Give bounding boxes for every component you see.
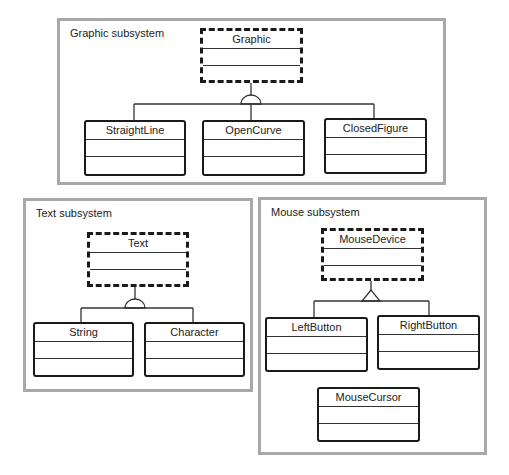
class-name: ClosedFigure <box>326 120 425 138</box>
class-operations <box>319 424 418 440</box>
class-attributes <box>90 253 186 270</box>
class-name: Character <box>146 324 243 342</box>
class-straightline[interactable]: StraightLine <box>84 120 186 176</box>
class-leftbutton[interactable]: LeftButton <box>265 317 368 372</box>
class-attributes <box>319 407 418 424</box>
class-rightbutton[interactable]: RightButton <box>377 315 480 370</box>
class-operations <box>204 157 303 173</box>
class-attributes <box>204 140 303 157</box>
class-opencurve[interactable]: OpenCurve <box>202 120 305 176</box>
class-operations <box>35 359 132 375</box>
class-operations <box>203 66 300 82</box>
class-name: StraightLine <box>86 122 184 140</box>
class-name: String <box>35 324 132 342</box>
class-name: MouseDevice <box>324 231 421 249</box>
class-name: Graphic <box>203 31 300 49</box>
class-name: LeftButton <box>267 319 366 337</box>
class-closedfigure[interactable]: ClosedFigure <box>324 118 427 174</box>
class-graphic[interactable]: Graphic <box>200 28 303 83</box>
class-attributes <box>35 342 132 359</box>
class-attributes <box>326 138 425 155</box>
class-name: OpenCurve <box>204 122 303 140</box>
class-attributes <box>146 342 243 359</box>
class-operations <box>86 157 184 173</box>
class-attributes <box>203 49 300 66</box>
class-operations <box>379 352 478 368</box>
class-name: Text <box>90 235 186 253</box>
class-attributes <box>324 249 421 266</box>
class-text[interactable]: Text <box>87 232 189 287</box>
class-operations <box>90 270 186 286</box>
class-operations <box>267 354 366 370</box>
class-attributes <box>86 140 184 157</box>
class-operations <box>324 266 421 282</box>
class-attributes <box>379 335 478 352</box>
class-operations <box>326 155 425 171</box>
class-string[interactable]: String <box>33 322 134 377</box>
class-name: RightButton <box>379 317 478 335</box>
text-subsystem-title: Text subsystem <box>36 207 112 219</box>
class-operations <box>146 359 243 375</box>
class-mousecursor[interactable]: MouseCursor <box>317 387 420 442</box>
class-name: MouseCursor <box>319 389 418 407</box>
mouse-subsystem-title: Mouse subsystem <box>271 206 360 218</box>
class-attributes <box>267 337 366 354</box>
graphic-subsystem-title: Graphic subsystem <box>70 27 164 39</box>
class-mousedevice[interactable]: MouseDevice <box>321 228 424 281</box>
class-character[interactable]: Character <box>144 322 245 377</box>
